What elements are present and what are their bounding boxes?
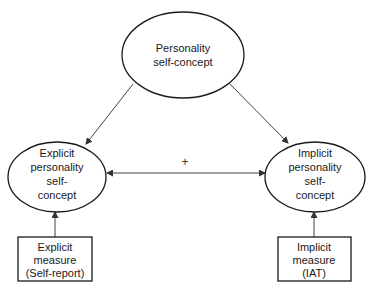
node-explicit-personality-self-concept: Explicit personality self- concept	[8, 142, 106, 212]
correlation-label: +	[181, 155, 188, 169]
node-explicit-line-1: Explicit	[40, 147, 75, 159]
node-explicit-line-2: personality	[30, 161, 84, 173]
node-explicit-line-4: concept	[38, 189, 77, 201]
node-implicit-measure: Implicit measure (IAT)	[278, 237, 351, 281]
node-implicit-line-3: self-	[305, 175, 326, 187]
node-personality-line-1: Personality	[156, 42, 211, 54]
edge-personality-to-implicit	[228, 82, 288, 143]
node-explicit-measure-line-2: measure	[34, 254, 77, 266]
node-implicit-line-4: concept	[296, 189, 335, 201]
node-personality-line-2: self-concept	[153, 56, 212, 68]
node-implicit-measure-line-2: measure	[293, 254, 336, 266]
edge-personality-to-explicit	[86, 84, 133, 144]
node-explicit-line-3: self-	[47, 175, 68, 187]
node-implicit-personality-self-concept: Implicit personality self- concept	[265, 142, 365, 212]
node-personality-self-concept: Personality self-concept	[122, 12, 244, 98]
node-explicit-measure-line-1: Explicit	[38, 241, 73, 253]
node-implicit-line-2: personality	[288, 161, 342, 173]
node-explicit-measure: Explicit measure (Self-report)	[18, 237, 92, 281]
node-implicit-measure-line-1: Implicit	[297, 241, 331, 253]
node-implicit-measure-line-3: (IAT)	[302, 267, 326, 279]
node-implicit-line-1: Implicit	[298, 147, 332, 159]
path-diagram: + Personality self-concept Explicit pers…	[0, 0, 369, 292]
node-explicit-measure-line-3: (Self-report)	[26, 267, 85, 279]
